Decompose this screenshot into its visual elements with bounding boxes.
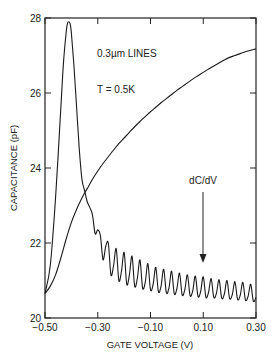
y-tick-label: 20	[30, 313, 42, 324]
x-tick-label: −0.10	[138, 322, 164, 333]
x-axis-title: GATE VOLTAGE (V)	[107, 339, 194, 350]
annotation-line-width: 0.3µm LINES	[97, 48, 157, 59]
axes-box	[45, 18, 256, 318]
x-tick-label: 0.30	[246, 322, 266, 333]
axis-ticks	[45, 18, 256, 318]
tick-labels: −0.50−0.30−0.100.100.302022242628	[30, 13, 266, 333]
y-tick-label: 28	[30, 13, 42, 24]
y-tick-label: 22	[30, 238, 42, 249]
annotation-temperature: T = 0.5K	[97, 84, 135, 95]
y-tick-label: 24	[30, 163, 42, 174]
capacitance-curve	[45, 49, 256, 294]
y-axis-title: CAPACITANCE (pF)	[8, 125, 19, 211]
plot-frame	[45, 18, 256, 318]
dcdv-arrow-icon	[200, 192, 207, 263]
dcdv-curve	[45, 22, 256, 302]
annotation-dcdv: dC/dV	[189, 175, 217, 186]
x-tick-label: −0.30	[85, 322, 111, 333]
capacitance-chart: −0.50−0.30−0.100.100.302022242628 GATE V…	[0, 0, 277, 360]
y-tick-label: 26	[30, 88, 42, 99]
x-tick-label: 0.10	[194, 322, 214, 333]
